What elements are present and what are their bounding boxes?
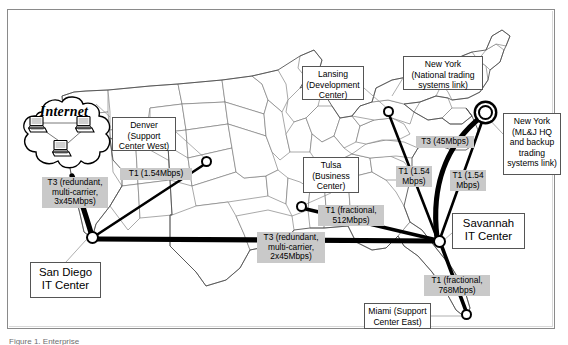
- link-speed-internet-sandiego: T3 (redundant, multi-carrier, 3x45Mbps): [42, 177, 108, 208]
- node-sandiego[interactable]: [86, 231, 99, 244]
- computer-icon: [52, 140, 72, 157]
- link-speed-denver-sandiego: T1 (1.54Mbps): [120, 168, 192, 180]
- node-newyork[interactable]: [478, 105, 493, 120]
- link-speed-newyork-savannah-t3: T3 (45Mbps): [416, 136, 474, 148]
- site-label-sandiego: San Diego IT Center: [30, 262, 101, 298]
- site-label-miami: Miami (Support Center East): [364, 303, 431, 329]
- site-label-savannah: Savannah IT Center: [452, 213, 525, 249]
- link-speed-tulsa-savannah: T1 (fractional, 512Mbps): [318, 205, 384, 226]
- node-savannah[interactable]: [433, 235, 446, 248]
- internet-cloud: Internet: [12, 96, 116, 178]
- site-label-denver: Denver (Support Center West): [112, 117, 176, 151]
- link-speed-sandiego-savannah: T3 (redundant, multi-carrier, 2x45Mbps): [257, 232, 325, 263]
- node-tulsa[interactable]: [296, 201, 307, 212]
- site-label-newyork-national: New York (National trading systems link): [403, 56, 483, 90]
- figure-caption: Figure 1. Enterprise: [9, 338, 209, 345]
- site-label-lansing: Lansing (Development Center): [302, 66, 364, 100]
- link-speed-newyork-savannah-t1: T1 (1.54 Mbps): [450, 170, 486, 191]
- node-lansing[interactable]: [383, 106, 394, 117]
- figure-canvas: Internet: [0, 0, 568, 345]
- link-speed-savannah-miami: T1 (fractional, 768Mbps): [424, 275, 490, 296]
- link-speed-lansing-savannah: T1 (1.54 Mbps): [396, 166, 432, 187]
- site-label-tulsa: Tulsa (Business Center): [303, 157, 359, 193]
- site-label-newyork-hq: New York (ML&J HQ and backup trading sys…: [503, 113, 561, 175]
- node-miami[interactable]: [461, 309, 472, 320]
- computer-icon: [28, 116, 48, 133]
- computer-icon: [75, 116, 95, 133]
- node-denver[interactable]: [201, 156, 212, 167]
